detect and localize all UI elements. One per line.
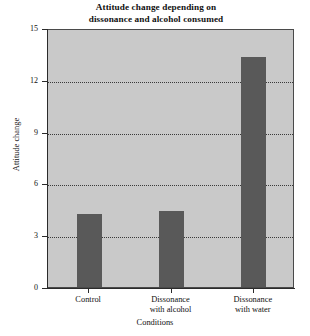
y-axis-tick — [42, 29, 47, 30]
x-axis-tick-label-line: with water — [210, 305, 296, 315]
y-axis-tick — [42, 236, 47, 237]
chart-title: Attitude change depending on dissonance … — [38, 2, 274, 25]
x-axis-tick — [253, 288, 254, 293]
y-axis-tick-label: 12 — [0, 77, 38, 85]
x-axis-tick — [171, 288, 172, 293]
plot-area — [47, 29, 294, 288]
x-axis-tick — [88, 288, 89, 293]
y-axis-tick — [42, 81, 47, 82]
chart-title-line-2: dissonance and alcohol consumed — [38, 14, 274, 26]
x-axis-tick-label-line: Dissonance — [128, 295, 214, 305]
x-axis-title: Conditions — [0, 318, 310, 327]
x-axis-tick-label: Control — [45, 295, 131, 305]
x-axis-tick-label: Dissonancewith alcohol — [128, 295, 214, 314]
y-axis-tick — [42, 133, 47, 134]
y-axis-line — [47, 29, 48, 289]
bar — [77, 214, 102, 287]
y-axis-tick-label: 0 — [0, 284, 38, 292]
bar — [159, 211, 184, 287]
x-axis-tick-label: Dissonancewith water — [210, 295, 296, 314]
bar — [241, 57, 266, 287]
chart-title-line-1: Attitude change depending on — [38, 2, 274, 14]
y-axis-tick-label: 3 — [0, 232, 38, 240]
x-axis-tick-label-line: Dissonance — [210, 295, 296, 305]
bar-chart: Attitude change depending on dissonance … — [0, 0, 310, 336]
y-axis-tick — [42, 184, 47, 185]
y-axis-tick-label: 15 — [0, 25, 38, 33]
x-axis-tick-label-line: Control — [45, 295, 131, 305]
y-axis-title: Attitude change — [12, 90, 21, 200]
x-axis-tick-label-line: with alcohol — [128, 305, 214, 315]
